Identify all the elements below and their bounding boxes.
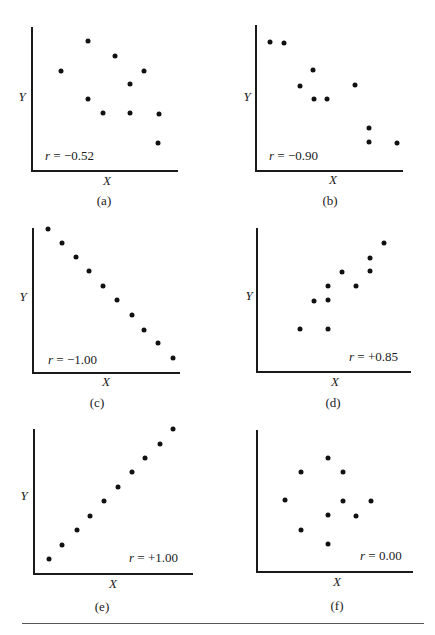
x-axis-label: X — [103, 173, 111, 189]
data-point — [326, 298, 331, 303]
data-point — [171, 356, 176, 361]
panel-caption: (e) — [95, 599, 109, 615]
data-point — [113, 54, 118, 59]
data-point — [326, 542, 331, 547]
x-axis-label: X — [333, 574, 341, 590]
correlation-label: r = +1.00 — [129, 550, 178, 566]
data-point — [88, 514, 93, 519]
data-point — [74, 255, 79, 260]
data-point — [283, 498, 288, 503]
data-point — [368, 269, 373, 274]
y-axis — [256, 430, 258, 573]
data-point — [341, 470, 346, 475]
panel-caption: (c) — [90, 395, 104, 411]
data-point — [128, 82, 133, 87]
data-point — [367, 140, 372, 145]
data-point — [116, 485, 121, 490]
x-axis — [31, 170, 178, 172]
data-point — [326, 327, 331, 332]
data-point — [158, 442, 163, 447]
data-point — [395, 141, 400, 146]
data-point — [326, 456, 331, 461]
data-point — [298, 84, 303, 89]
data-point — [143, 456, 148, 461]
data-point — [298, 327, 303, 332]
data-point — [268, 40, 273, 45]
data-point — [142, 69, 147, 74]
data-point — [130, 470, 135, 475]
data-point — [354, 514, 359, 519]
data-point — [369, 499, 374, 504]
x-axis-label: X — [331, 374, 339, 390]
y-axis — [255, 25, 257, 172]
bottom-rule-divider — [22, 623, 424, 624]
panel-caption: (b) — [322, 193, 337, 209]
data-point — [60, 241, 65, 246]
data-point — [75, 528, 80, 533]
data-point — [354, 284, 359, 289]
data-point — [326, 284, 331, 289]
data-point — [60, 543, 65, 548]
data-point — [299, 470, 304, 475]
y-axis — [32, 228, 34, 374]
correlation-label: r = 0.00 — [360, 548, 402, 564]
y-axis-label: Y — [19, 289, 26, 305]
data-point — [86, 39, 91, 44]
data-point — [312, 299, 317, 304]
data-point — [86, 97, 91, 102]
data-point — [340, 270, 345, 275]
correlation-label: r = −1.00 — [48, 352, 97, 368]
data-point — [156, 141, 161, 146]
data-point — [382, 241, 387, 246]
data-point — [101, 284, 106, 289]
x-axis — [256, 571, 413, 573]
correlation-label: r = −0.90 — [269, 148, 318, 164]
y-axis-label: Y — [20, 488, 27, 504]
panel-caption: (a) — [97, 193, 111, 209]
data-point — [130, 313, 135, 318]
y-axis-label: Y — [245, 288, 252, 304]
data-point — [368, 256, 373, 261]
correlation-label: r = −0.52 — [45, 148, 94, 164]
data-point — [156, 341, 161, 346]
data-point — [115, 298, 120, 303]
data-point — [128, 111, 133, 116]
y-axis — [256, 228, 258, 373]
data-point — [59, 69, 64, 74]
data-point — [171, 427, 176, 432]
y-axis — [31, 27, 33, 172]
data-point — [102, 499, 107, 504]
data-point — [325, 97, 330, 102]
data-point — [47, 557, 52, 562]
data-point — [367, 126, 372, 131]
y-axis — [33, 429, 35, 575]
correlation-label: r = +0.85 — [349, 349, 398, 365]
data-point — [353, 83, 358, 88]
data-point — [282, 41, 287, 46]
data-point — [142, 328, 147, 333]
data-point — [311, 68, 316, 73]
data-point — [157, 112, 162, 117]
panel-caption: (f) — [331, 598, 344, 614]
data-point — [299, 528, 304, 533]
x-axis-label: X — [109, 576, 117, 592]
x-axis-label: X — [102, 374, 110, 390]
x-axis-label: X — [329, 172, 337, 188]
data-point — [326, 513, 331, 518]
data-point — [101, 111, 106, 116]
y-axis-label: Y — [243, 89, 250, 105]
data-point — [341, 499, 346, 504]
y-axis-label: Y — [18, 89, 25, 105]
data-point — [46, 227, 51, 232]
x-axis — [256, 371, 411, 373]
x-axis — [33, 573, 193, 575]
data-point — [312, 97, 317, 102]
panel-caption: (d) — [325, 395, 340, 411]
data-point — [87, 269, 92, 274]
